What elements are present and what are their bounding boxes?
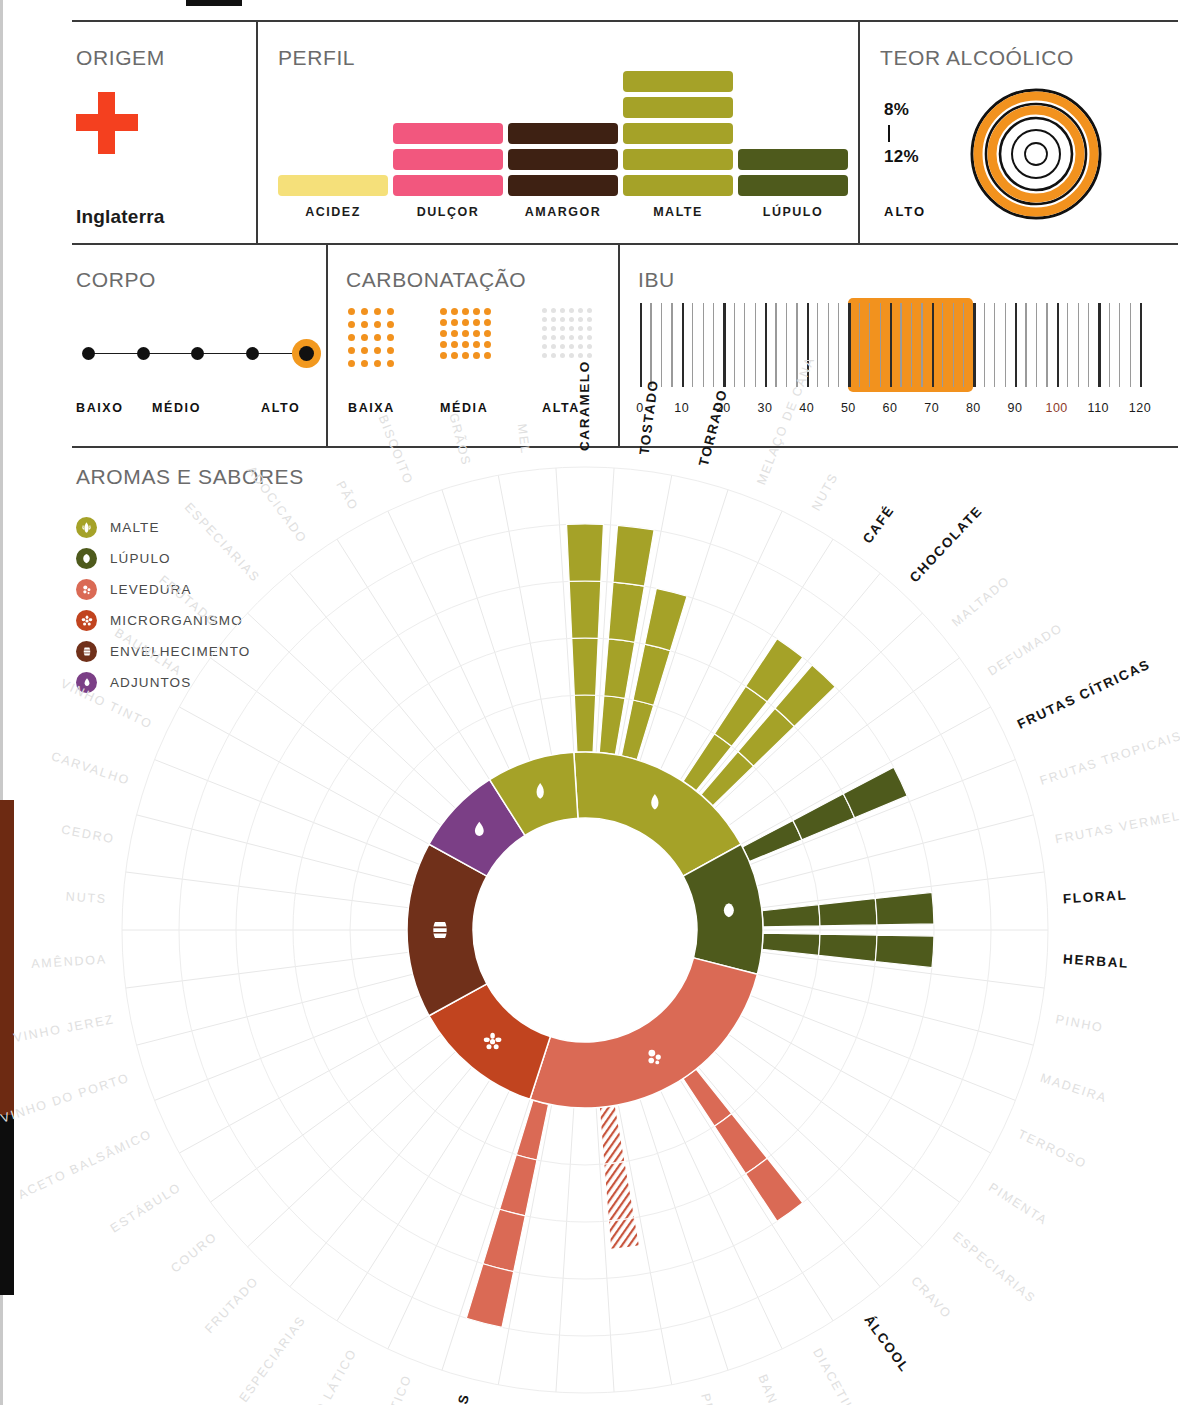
wheel-label-floral[interactable]: FLORAL bbox=[1063, 887, 1128, 906]
perfil-column bbox=[393, 123, 503, 196]
wheel-bar-segment[interactable] bbox=[746, 1158, 803, 1221]
ibu-tick-minor bbox=[713, 303, 714, 387]
wheel-label-diacetil[interactable]: DIACETIL bbox=[810, 1346, 856, 1405]
wheel-label-vinhojerez[interactable]: VINHO JEREZ bbox=[12, 1012, 115, 1045]
wheel-label-herbal[interactable]: HERBAL bbox=[1063, 952, 1130, 971]
wheel-label-cedro[interactable]: CEDRO bbox=[60, 823, 116, 847]
wheel-label-banana[interactable]: BANANA bbox=[755, 1373, 791, 1405]
wheel-bar-segment[interactable] bbox=[604, 1162, 635, 1221]
perfil-segment bbox=[393, 149, 503, 170]
wheel-label-po[interactable]: PÃO bbox=[333, 479, 361, 514]
wheel-label-madeira[interactable]: MADEIRA bbox=[1039, 1071, 1109, 1106]
corpo-dot-2[interactable] bbox=[137, 347, 150, 360]
corpo-dot-1[interactable] bbox=[82, 347, 95, 360]
wheel-label-cidoactico[interactable]: ÁCIDO ACÉTICO bbox=[356, 1372, 415, 1405]
wheel-label-especiarias[interactable]: ESPECIARIAS bbox=[950, 1229, 1038, 1306]
wheel-label-couro[interactable]: COURO bbox=[168, 1229, 220, 1275]
wheel-label-caramelo[interactable]: CARAMELO bbox=[577, 360, 592, 451]
wheel-label-frutado[interactable]: FRUTADO bbox=[202, 1274, 262, 1336]
wheel-bar-segment[interactable] bbox=[599, 1105, 625, 1164]
wheel-label-pinho[interactable]: PINHO bbox=[1054, 1012, 1104, 1035]
wheel-bar-segment[interactable] bbox=[633, 644, 670, 705]
wheel-label-gros[interactable]: GRÃOS bbox=[446, 412, 473, 468]
wheel-bar-segment[interactable] bbox=[599, 696, 625, 755]
carbonatacao-grid-alta[interactable] bbox=[542, 308, 596, 362]
wheel-bar-segment[interactable] bbox=[608, 1218, 639, 1250]
wheel-grid-spoke bbox=[179, 1016, 429, 1153]
wheel-label-acetobalsmico[interactable]: ACETO BALSÂMICO bbox=[16, 1126, 155, 1202]
perfil-column bbox=[738, 149, 848, 196]
wheel-label-frutastropicais[interactable]: FRUTAS TROPICAIS bbox=[1038, 729, 1180, 788]
wheel-bar-segment[interactable] bbox=[567, 524, 604, 581]
corpo-dot-4[interactable] bbox=[246, 347, 259, 360]
wheel-label-frutasvermelhas[interactable]: FRUTAS VERMELHAS bbox=[1054, 803, 1180, 846]
ibu-tick-minor bbox=[775, 303, 776, 387]
ibu-tick-label-80: 80 bbox=[956, 401, 990, 415]
wheel-bar-segment[interactable] bbox=[483, 1209, 525, 1271]
wheel-bar-group bbox=[466, 1100, 548, 1327]
corpo-scale[interactable] bbox=[88, 340, 306, 370]
wheel-label-perama[interactable]: PERA/MAÇÃ bbox=[698, 1392, 734, 1405]
corpo-dot-5[interactable] bbox=[299, 346, 314, 361]
wheel-label-frutasescuras[interactable]: FRUTAS ESCURAS bbox=[421, 1392, 472, 1405]
wheel-bar-segment[interactable] bbox=[762, 933, 820, 955]
wheel-label-defumado[interactable]: DEFUMADO bbox=[985, 621, 1065, 679]
wheel-label-cravo[interactable]: CRAVO bbox=[908, 1274, 954, 1322]
wheel-label-mel[interactable]: MEL bbox=[515, 423, 533, 456]
wheel-bar-segment[interactable] bbox=[875, 935, 934, 968]
wheel-bar-segment[interactable] bbox=[762, 905, 820, 927]
wheel-label-terroso[interactable]: TERROSO bbox=[1016, 1127, 1089, 1171]
wheel-bar-segment[interactable] bbox=[819, 934, 877, 961]
wheel-bar-segment[interactable] bbox=[516, 1100, 548, 1160]
ibu-tick-minor bbox=[994, 303, 995, 387]
wheel-grid-spoke bbox=[498, 475, 551, 755]
wheel-label-cidoltico[interactable]: ÁCIDO LÁTICO bbox=[294, 1346, 360, 1405]
wheel-label-frutado[interactable]: FRUTADO bbox=[156, 573, 220, 630]
wheel-bar-segment[interactable] bbox=[875, 892, 934, 925]
wheel-hub-arc-levedura[interactable] bbox=[530, 958, 757, 1108]
wheel-label-vinhotinto[interactable]: VINHO TINTO bbox=[59, 677, 155, 732]
aroma-wheel[interactable]: CARAMELOTOSTADOTORRADOMELAÇO DE CANANUTS… bbox=[90, 455, 1180, 1405]
wheel-label-especiarias[interactable]: ESPECIARIAS bbox=[237, 1313, 309, 1405]
wheel-bar-segment[interactable] bbox=[608, 582, 644, 642]
wheel-label-frutasctricas[interactable]: FRUTAS CÍTRICAS bbox=[1015, 657, 1153, 732]
wheel-label-vinhodoporto[interactable]: VINHO DO PORTO bbox=[0, 1071, 131, 1126]
wheel-bar-segment[interactable] bbox=[572, 638, 598, 695]
wheel-bar-segment[interactable] bbox=[819, 898, 877, 925]
perfil-segment bbox=[623, 71, 733, 92]
panel-origem: ORIGEM Inglaterra bbox=[76, 46, 165, 228]
wheel-bar-segment[interactable] bbox=[604, 639, 635, 698]
wheel-bar-segment[interactable] bbox=[500, 1155, 537, 1216]
wheel-grid-spoke bbox=[556, 1108, 574, 1392]
wheel-bar-segment[interactable] bbox=[621, 700, 653, 760]
wheel-label-pimenta[interactable]: PIMENTA bbox=[986, 1180, 1050, 1228]
divider-row2 bbox=[72, 446, 1178, 448]
wheel-label-biscoito[interactable]: BISCOITO bbox=[376, 413, 416, 487]
ibu-tick-major bbox=[932, 303, 934, 387]
wheel-label-chocolate[interactable]: CHOCOLATE bbox=[907, 503, 986, 585]
wheel-label-baunilha[interactable]: BAUNILHA bbox=[112, 626, 184, 679]
wheel-label-carvalho[interactable]: CARVALHO bbox=[49, 749, 131, 788]
wheel-label-lcool[interactable]: ÁLCOOL bbox=[861, 1313, 912, 1376]
panel-corpo: CORPO bbox=[76, 268, 156, 292]
wheel-label-caf[interactable]: CAFÉ bbox=[860, 503, 898, 547]
carbonatacao-grid-média[interactable] bbox=[440, 308, 495, 363]
corpo-dot-3[interactable] bbox=[191, 347, 204, 360]
wheel-bar-segment[interactable] bbox=[793, 794, 855, 840]
carbonatacao-grid-baixa[interactable] bbox=[348, 308, 400, 373]
wheel-label-especiarias[interactable]: ESPECIARIAS bbox=[182, 500, 263, 585]
wheel-label-nuts[interactable]: NUTS bbox=[809, 470, 841, 513]
ibu-tick-minor bbox=[786, 303, 787, 387]
wheel-label-adocicado[interactable]: ADOCICADO bbox=[244, 464, 309, 547]
wheel-bar-segment[interactable] bbox=[574, 695, 595, 752]
wheel-bar-segment[interactable] bbox=[613, 525, 654, 586]
wheel-bar-segment[interactable] bbox=[569, 581, 601, 638]
wheel-bar-segment[interactable] bbox=[645, 588, 687, 650]
wheel-bar-segment[interactable] bbox=[843, 767, 907, 818]
ibu-tick-minor bbox=[650, 303, 651, 387]
wheel-bar-group bbox=[762, 892, 934, 927]
wheel-label-amndoa[interactable]: AMÊNDOA bbox=[31, 951, 108, 971]
wheel-label-nuts[interactable]: NUTS bbox=[65, 890, 107, 907]
wheel-label-estbulo[interactable]: ESTÁBULO bbox=[107, 1179, 184, 1235]
wheel-label-maltado[interactable]: MALTADO bbox=[949, 573, 1013, 629]
